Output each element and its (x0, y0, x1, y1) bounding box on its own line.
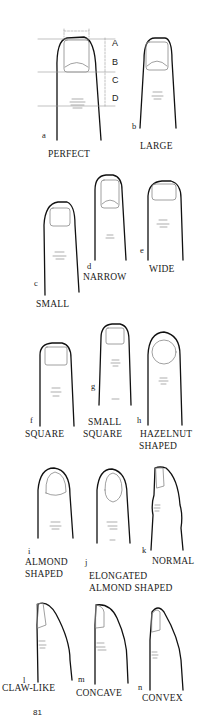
label-almond-1: ALMOND (25, 557, 68, 567)
label-square: SQUARE (25, 429, 64, 439)
dimension-label-d: D (112, 94, 119, 103)
finger-n-convex (150, 608, 183, 690)
finger-h-hazelnut (148, 332, 182, 425)
label-small-square-1: SMALL (88, 417, 121, 427)
panel-letter-c: c (34, 279, 38, 288)
label-perfect: PERFECT (48, 149, 90, 159)
label-wide: WIDE (149, 264, 175, 274)
panel-letter-a: a (42, 131, 46, 140)
label-narrow: NARROW (83, 272, 126, 282)
panel-letter-b: b (132, 122, 136, 131)
page-number: 81 (33, 708, 42, 717)
finger-e-wide (148, 181, 183, 260)
finger-m-concave (95, 605, 128, 684)
label-hazelnut-2: SHAPED (139, 441, 177, 451)
finger-b-large (140, 38, 176, 128)
panel-letter-d: d (87, 262, 91, 271)
panel-letter-g: g (91, 382, 95, 391)
finger-a-perfect (57, 37, 101, 140)
dimension-label-b: B (112, 58, 118, 67)
finger-l-claw-like (37, 603, 72, 682)
panel-letter-e: e (140, 246, 144, 255)
label-almond-2: SHAPED (25, 569, 63, 579)
panel-letter-m: m (78, 675, 85, 684)
finger-c-small (44, 202, 79, 295)
panel-letter-k: k (142, 546, 146, 555)
dimension-label-c: C (112, 76, 119, 85)
label-concave: CONCAVE (76, 688, 122, 698)
panel-letter-h: h (137, 416, 141, 425)
finger-k-normal (151, 467, 183, 550)
finger-f-square (40, 343, 74, 426)
label-normal: NORMAL (152, 556, 194, 566)
finger-i-almond (38, 468, 73, 538)
panel-letter-j: j (85, 558, 87, 567)
dimension-label-a: A (112, 39, 118, 48)
label-small: SMALL (36, 299, 69, 309)
panel-letter-n: n (138, 683, 142, 692)
panel-letter-i: i (28, 547, 30, 556)
label-elongated-almond-1: ELONGATED (89, 571, 147, 581)
label-large: LARGE (140, 141, 173, 151)
finger-g-small-square (99, 324, 131, 405)
fingernail-diagram (0, 0, 211, 724)
label-small-square-2: SQUARE (83, 429, 122, 439)
panel-letter-f: f (30, 416, 33, 425)
label-convex: CONVEX (142, 693, 183, 703)
label-elongated-almond-2: ALMOND SHAPED (89, 583, 173, 593)
label-hazelnut-1: HAZELNUT (140, 429, 192, 439)
finger-d-narrow (95, 175, 126, 260)
finger-j-elongated-almond (97, 469, 130, 543)
label-claw-like: CLAW-LIKE (2, 683, 55, 693)
